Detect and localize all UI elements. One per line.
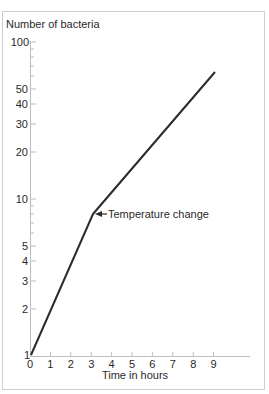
bacteria-growth-chart: Number of bacteria 100 50 40 30 20 10 5 … [0,0,269,394]
y-tick-10: 10 [16,193,28,205]
y-tick-3: 3 [22,275,28,287]
x-axis-label: Time in hours [102,369,169,381]
x-tick-9: 9 [211,358,217,370]
y-tick-30: 30 [16,118,28,130]
y-tick-5: 5 [22,240,28,252]
annotation-arrow-icon [95,211,107,217]
x-tick-7: 7 [170,358,176,370]
annotation-temperature-change: Temperature change [108,208,209,220]
y-axis-label: Number of bacteria [6,18,100,30]
y-tick-50: 50 [16,83,28,95]
y-tick-20: 20 [16,146,28,158]
y-tick-40: 40 [16,98,28,110]
x-tick-2: 2 [68,358,74,370]
y-tick-4: 4 [22,255,28,267]
x-tick-0: 0 [27,358,33,370]
x-tick-1: 1 [47,358,53,370]
y-tick-2: 2 [22,303,28,315]
y-tick-labels: 100 50 40 30 20 10 5 4 3 2 1 [11,36,30,361]
y-tick-100: 100 [11,36,29,48]
x-tick-8: 8 [190,358,196,370]
x-tick-3: 3 [88,358,94,370]
x-ticks [50,352,213,356]
